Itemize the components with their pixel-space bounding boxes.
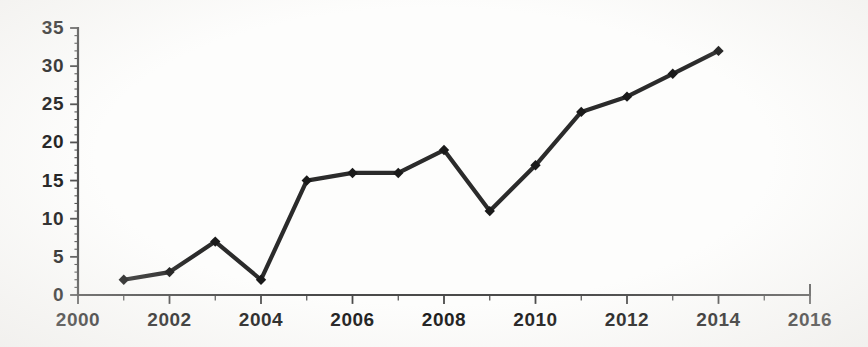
data-point-marker [347, 168, 357, 178]
data-point-marker [119, 275, 129, 285]
chart-plot-area [0, 0, 868, 347]
line-chart: 05101520253035 2000200220042006200820102… [0, 0, 868, 347]
data-series-group [119, 46, 724, 285]
data-line [124, 51, 719, 280]
